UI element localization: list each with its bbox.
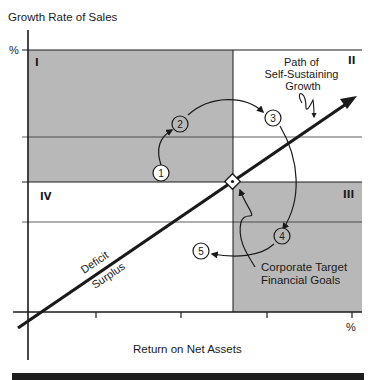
footer-bar [12,373,364,380]
step-number: 5 [198,246,204,257]
y-axis-unit: % [9,44,19,56]
path-label-line2: Self-Sustaining [264,68,338,80]
step-circle-4: 4 [274,228,290,244]
step-circle-3: 3 [265,110,281,126]
step-circle-1: 1 [153,165,169,181]
step-circle-2: 2 [172,116,188,132]
path-label-line1: Path of [284,56,320,68]
step-number: 4 [279,231,285,242]
x-axis-unit: % [346,321,356,333]
quadrant-label-iii: III [343,189,354,200]
step-circle-5: 5 [193,243,209,259]
step-number: 2 [177,119,183,130]
quadrant-i-shading [28,50,233,182]
y-axis-label: Growth Rate of Sales [8,11,118,23]
quadrant-label-ii: II [348,55,355,66]
corporate-target-label: Corporate Target Financial Goals [261,261,350,286]
quadrant-label-iv: IV [40,191,52,202]
path-label-line3: Growth [285,80,320,92]
step-number: 3 [270,113,276,124]
corporate-target-line1: Corporate Target [261,261,348,273]
growth-diagram: Growth Rate of Sales % % Return on Net A… [0,0,372,380]
corporate-target-line2: Financial Goals [261,274,341,286]
path-label: Path of Self-Sustaining Growth [264,56,341,92]
quadrant-label-i: I [35,57,39,68]
quadrant-iii-shading [233,182,362,312]
x-axis-label: Return on Net Assets [133,343,242,355]
squiggle-pointer-icon [299,94,314,117]
step-number: 1 [158,168,164,179]
